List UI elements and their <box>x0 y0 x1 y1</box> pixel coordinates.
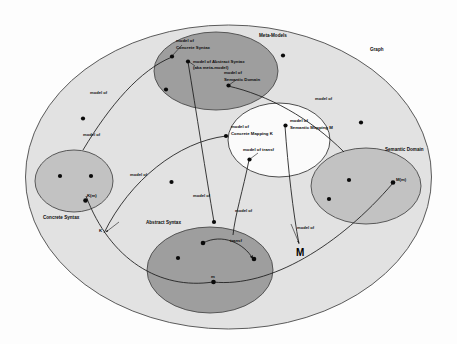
label-model-of-concrete-syntax-line2: Concrete Syntax <box>176 45 211 50</box>
node-model-of-semantic-domain <box>226 83 230 87</box>
label-m: m <box>211 274 215 279</box>
label-edge-model-of-1: model of <box>90 90 108 95</box>
node-graph-extra-1 <box>81 116 85 120</box>
label-model-of-abstract-syntax-line1: model of Abstract Syntax <box>193 59 245 64</box>
node-model-of-semantic-mapping <box>283 123 287 127</box>
region-concrete-syntax-ellipse <box>35 150 113 212</box>
label-edge-model-of-4: model of <box>193 193 211 198</box>
node-m <box>211 280 216 285</box>
node-cs-extra-1 <box>58 174 62 178</box>
label-model-of-concrete-mapping-line2: Concrete Mapping K <box>231 131 274 136</box>
node-sd-extra-1 <box>347 178 351 182</box>
label-mm: M(m) <box>396 177 407 182</box>
label-edge-model-of-6: model of <box>297 225 315 230</box>
label-model-of-semantic-domain-line2: Semantic Domain <box>224 77 260 82</box>
region-semantic-domain-ellipse <box>311 148 421 224</box>
label-model-of-semantic-mapping-line2: Semantic Mapping M <box>290 125 333 130</box>
label-edge-model-of-2: model of <box>315 96 333 101</box>
region-meta-models-ellipse <box>154 32 278 110</box>
label-model-of-transf: model of transf <box>243 147 275 152</box>
label-concrete-syntax: Concrete Syntax <box>43 215 80 220</box>
label-abstract-syntax: Abstract Syntax <box>146 220 181 225</box>
node-mm <box>391 180 396 185</box>
node-graph-extra-3 <box>359 120 363 124</box>
label-model-of-semantic-mapping-line1: model of <box>290 118 308 123</box>
label-edge-model-of-3: model of <box>130 172 148 177</box>
label-semantic-domain: Semantic Domain <box>385 147 424 152</box>
diagram-canvas: Meta-Models Graph Concrete Syntax Abstra… <box>0 0 457 344</box>
label-km: K(m) <box>87 193 97 198</box>
node-as-transf-dst <box>252 257 257 262</box>
label-edge-model-of-7: model of <box>83 132 101 137</box>
node-sd-extra-2 <box>327 197 331 201</box>
node-model-of-transf <box>247 157 251 161</box>
node-graph-extra-2 <box>169 180 173 184</box>
node-model-of-concrete-mapping <box>224 134 228 138</box>
node-cs-extra-2 <box>89 174 93 178</box>
label-model-of-semantic-domain-line1: model of <box>224 70 242 75</box>
label-transf: transf <box>230 238 243 243</box>
node-km <box>83 198 88 203</box>
label-model-of-concrete-syntax-line1: model of <box>176 38 194 43</box>
label-m-arrow: M <box>296 247 304 258</box>
region-mappings-ellipse <box>228 103 330 177</box>
node-model-of-concrete-syntax <box>170 54 174 58</box>
label-graph: Graph <box>370 47 384 52</box>
node-meta-extra-1 <box>164 87 168 91</box>
node-as-transf-src <box>201 241 206 246</box>
node-as-extra-1 <box>176 256 180 260</box>
node-meta-extra-2 <box>281 53 285 57</box>
node-model-of-abstract-syntax <box>186 59 190 63</box>
label-meta-models: Meta-Models <box>259 33 287 38</box>
label-edge-model-of-5: model of <box>235 208 253 213</box>
node-graph-extra-4 <box>212 220 216 224</box>
label-model-of-concrete-mapping-line1: model of <box>231 124 249 129</box>
